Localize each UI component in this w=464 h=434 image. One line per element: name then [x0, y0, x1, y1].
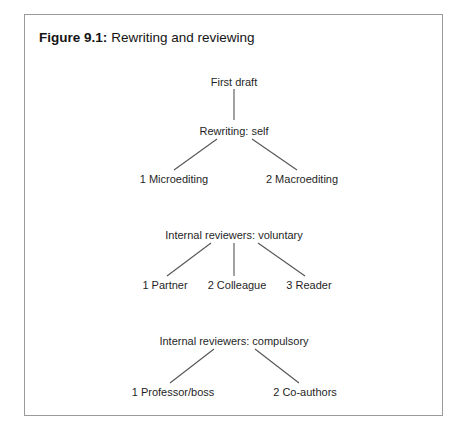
node-professor-boss: 1 Professor/boss: [132, 386, 215, 399]
connector-compulsory-coauthors: [255, 349, 299, 383]
node-colleague: 2 Colleague: [208, 279, 267, 292]
node-partner: 1 Partner: [142, 279, 187, 292]
node-macroediting: 2 Macroediting: [266, 173, 338, 186]
node-internal-reviewers-compulsory: Internal reviewers: compulsory: [159, 335, 308, 348]
connector-voluntary-partner: [167, 243, 211, 276]
node-microediting: 1 Microediting: [140, 173, 208, 186]
node-reader: 3 Reader: [286, 279, 331, 292]
node-first-draft: First draft: [211, 76, 257, 89]
node-co-authors: 2 Co-authors: [273, 386, 337, 399]
connector-voluntary-reader: [258, 243, 305, 276]
tree-diagram: First draft Rewriting: self 1 Microediti…: [25, 15, 442, 415]
connector-rewriting-microediting: [174, 139, 217, 170]
figure-panel: Figure 9.1:Rewriting and reviewing: [24, 14, 443, 416]
node-rewriting-self: Rewriting: self: [199, 125, 268, 138]
node-internal-reviewers-voluntary: Internal reviewers: voluntary: [165, 229, 303, 242]
connector-compulsory-professor: [170, 349, 214, 383]
connector-rewriting-macroediting: [252, 139, 297, 170]
